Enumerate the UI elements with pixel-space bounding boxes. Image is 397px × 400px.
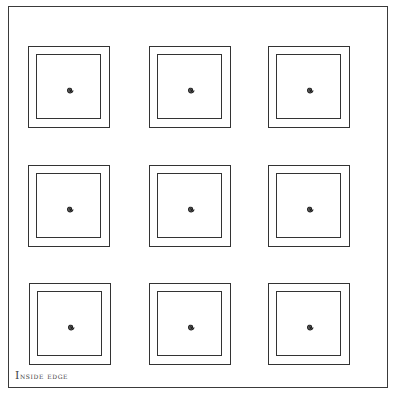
spiral-icon	[65, 319, 77, 331]
outer-square-r1c3	[268, 46, 350, 128]
spiral-icon	[185, 319, 197, 331]
spiral-icon	[304, 201, 316, 213]
outer-square-r1c1	[28, 46, 110, 128]
inner-square	[157, 291, 222, 356]
inner-square	[157, 173, 222, 238]
inner-square	[36, 54, 101, 119]
spiral-icon	[304, 319, 316, 331]
inside-edge-label: Inside edge	[15, 369, 68, 382]
inner-square	[37, 291, 102, 356]
spiral-icon	[185, 82, 197, 94]
outer-square-r2c1	[28, 165, 110, 247]
spiral-icon	[64, 82, 76, 94]
spiral-icon	[185, 201, 197, 213]
spiral-icon	[64, 201, 76, 213]
outer-square-r3c2	[149, 283, 231, 365]
outer-square-r3c1	[29, 283, 111, 365]
inner-square	[36, 173, 101, 238]
inner-square	[276, 173, 341, 238]
outer-square-r2c2	[149, 165, 231, 247]
outer-square-r1c2	[149, 46, 231, 128]
inner-square	[276, 291, 341, 356]
inner-square	[157, 54, 222, 119]
outer-square-r2c3	[268, 165, 350, 247]
spiral-icon	[304, 82, 316, 94]
outer-square-r3c3	[268, 283, 350, 365]
inner-square	[276, 54, 341, 119]
